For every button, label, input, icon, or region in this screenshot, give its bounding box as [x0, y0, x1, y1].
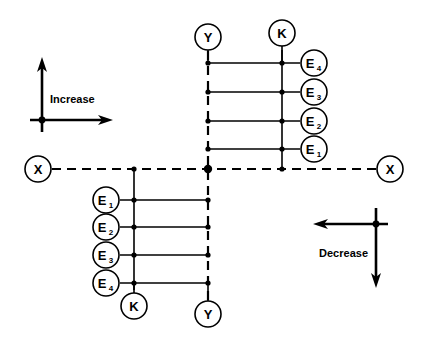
terminal-x-right[interactable]: X [377, 156, 403, 182]
node-dot [205, 252, 210, 257]
terminal-y-bottom[interactable]: Y [195, 301, 221, 327]
node-dot [131, 166, 136, 171]
terminal-y-bottom-label: Y [204, 307, 213, 322]
e-node-lower-2-subscript: 2 [109, 228, 114, 237]
node-dot [131, 224, 136, 229]
e-node-upper-1[interactable]: E 1 [301, 136, 327, 162]
node-dot [205, 224, 210, 229]
e-node-lower-3[interactable]: E 3 [93, 242, 119, 268]
terminal-x-right-label: X [386, 162, 395, 177]
k-node-lower[interactable]: K [121, 293, 147, 319]
lower-left-branch-group [120, 166, 211, 290]
terminal-y-top[interactable]: Y [195, 24, 221, 50]
increase-legend: Increase [30, 57, 113, 132]
terminal-x-left-label: X [34, 162, 43, 177]
decrease-hub-dot [373, 221, 380, 228]
e-node-lower-4-subscript: 4 [109, 284, 114, 293]
node-dot [205, 197, 210, 202]
k-node-upper-label: K [277, 26, 287, 41]
e-node-lower-3-subscript: 3 [109, 256, 114, 265]
e-node-upper-2-subscript: 2 [317, 122, 322, 131]
e-node-upper-3-subscript: 3 [317, 93, 322, 102]
increase-legend-label: Increase [50, 93, 95, 105]
e-node-lower-1-subscript: 1 [109, 201, 114, 210]
node-dot [131, 252, 136, 257]
e-node-upper-1-label: E [306, 142, 315, 157]
k-node-upper[interactable]: K [269, 20, 295, 46]
decrease-legend-label: Decrease [319, 247, 368, 259]
node-dot [205, 146, 210, 151]
e-node-lower-1-label: E [98, 193, 107, 208]
node-dot [205, 89, 210, 94]
e-node-lower-4[interactable]: E 4 [93, 270, 119, 296]
node-dot [279, 89, 284, 94]
increase-hub-dot [39, 117, 46, 124]
diagram-canvas: X X Y Y K K E 4 [0, 0, 423, 339]
node-dot [205, 118, 210, 123]
e-node-upper-2[interactable]: E 2 [301, 108, 327, 134]
e-node-lower-2-label: E [98, 220, 107, 235]
e-node-upper-3-label: E [306, 85, 315, 100]
node-dot [131, 197, 136, 202]
e-node-lower-1[interactable]: E 1 [93, 187, 119, 213]
axis-ladder-diagram: X X Y Y K K E 4 [0, 0, 423, 339]
e-node-lower-2[interactable]: E 2 [93, 214, 119, 240]
e-node-lower-4-label: E [98, 276, 107, 291]
e-node-upper-1-subscript: 1 [317, 150, 322, 159]
terminal-y-top-label: Y [204, 30, 213, 45]
k-node-lower-label: K [129, 299, 139, 314]
terminal-x-left[interactable]: X [25, 156, 51, 182]
decrease-legend: Decrease [313, 208, 388, 288]
node-dot [279, 118, 284, 123]
e-node-lower-3-label: E [98, 248, 107, 263]
e-node-upper-4-label: E [306, 56, 315, 71]
node-dot [279, 166, 284, 171]
e-node-upper-2-label: E [306, 114, 315, 129]
e-node-upper-4[interactable]: E 4 [301, 50, 327, 76]
e-node-upper-4-subscript: 4 [317, 64, 322, 73]
node-dot [279, 146, 284, 151]
upper-right-branch-group [205, 50, 300, 172]
origin-node-dot [204, 165, 212, 173]
e-node-upper-3[interactable]: E 3 [301, 79, 327, 105]
